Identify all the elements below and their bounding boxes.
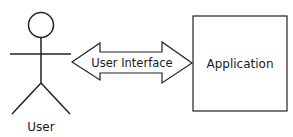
actor-left-leg (12, 83, 41, 114)
actor-label: User (27, 120, 54, 134)
actor-right-leg (41, 83, 70, 114)
user-actor-icon (10, 13, 71, 115)
connector-label: User Interface (91, 56, 172, 70)
actor-head (29, 13, 54, 38)
application-label: Application (206, 57, 273, 71)
diagram-canvas: User User Interface Application (0, 0, 293, 137)
